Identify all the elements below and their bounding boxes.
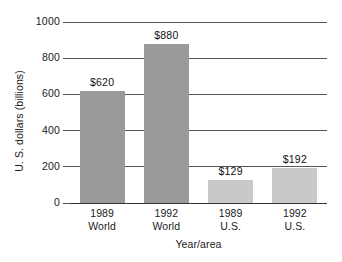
x-axis-tick-label-line: U.S. — [255, 220, 335, 233]
y-axis-tick-label: 200 — [14, 161, 60, 172]
y-axis-tick-label: 600 — [14, 88, 60, 99]
gridline — [70, 58, 327, 59]
bar-chart-figure: U. S. dollars (billions) 100080060040020… — [0, 0, 342, 262]
x-axis-tick-label-line: 1992 — [255, 207, 335, 220]
x-axis-tick-labels: 1989World1992World1989U.S.1992U.S. — [70, 207, 327, 237]
y-axis-tick-mark — [63, 166, 70, 167]
bar-value-label: $620 — [62, 76, 142, 88]
y-axis-tick-mark — [63, 130, 70, 131]
bar-value-label: $880 — [126, 29, 206, 41]
bar-value-label: $192 — [255, 153, 335, 165]
gridline — [70, 22, 327, 23]
y-axis-tick-labels: 10008006004002000 — [0, 22, 60, 203]
y-axis-tick-mark — [63, 94, 70, 95]
y-axis-tick-label: 1000 — [14, 16, 60, 27]
y-axis-tick-label: 0 — [14, 197, 60, 208]
plot-area: $620$880$129$192 — [70, 22, 327, 203]
bar — [208, 180, 253, 203]
y-axis-tick-mark — [63, 203, 70, 204]
y-axis-tick-mark — [63, 22, 70, 23]
bar — [272, 168, 317, 203]
bar-value-label: $129 — [191, 165, 271, 177]
y-axis-tick-mark — [63, 58, 70, 59]
x-axis-title: Year/area — [70, 238, 327, 250]
y-axis-tick-label: 400 — [14, 125, 60, 136]
y-axis-tick-label: 800 — [14, 52, 60, 63]
bar — [80, 91, 125, 203]
bar — [144, 44, 189, 203]
x-axis-tick-label: 1992U.S. — [255, 207, 335, 232]
